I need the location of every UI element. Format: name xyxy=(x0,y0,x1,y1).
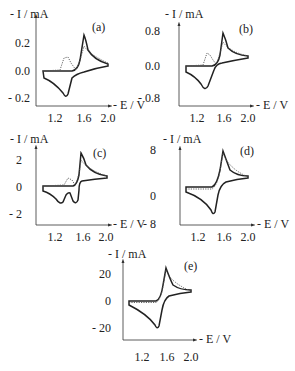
x-tick: 1.6 xyxy=(76,230,91,244)
y-axis-label: - I / mA xyxy=(10,132,49,146)
panel-tag: (c) xyxy=(93,146,106,160)
y-tick: 8 xyxy=(150,143,156,157)
panel-tag: (d) xyxy=(240,144,254,158)
y-tick: - 8 xyxy=(143,217,156,231)
y-tick: 2 xyxy=(16,153,22,167)
cv-solid xyxy=(43,153,107,203)
x-tick: 1.2 xyxy=(191,230,206,244)
y-axis-label: - I / mA xyxy=(10,7,49,21)
x-tick: 1.6 xyxy=(160,350,175,364)
panel-tag: (a) xyxy=(92,20,105,34)
panel-tag: (b) xyxy=(239,22,253,36)
y-axis-label: - I / mA xyxy=(108,247,147,261)
x-tick: 2.0 xyxy=(101,111,116,125)
y-tick: 0 xyxy=(105,294,111,308)
cv-solid xyxy=(186,33,248,89)
x-axis-label: - E / V xyxy=(199,332,231,346)
y-tick: - 0.2 xyxy=(8,91,30,105)
y-tick: 0.0 xyxy=(15,64,30,78)
figure-canvas: - I / mA (a) 0.2 0.0 - 0.2 1.2 1.6 2.0 -… xyxy=(0,0,295,371)
x-tick: 1.2 xyxy=(190,111,205,125)
y-tick: 0.2 xyxy=(15,36,30,50)
panel-b: - I / mA (b) 0.8 0.0 - 0.8 1.2 1.6 2.0 -… xyxy=(138,7,288,125)
x-tick: 1.2 xyxy=(48,230,63,244)
panel-e: - I / mA (e) 20 0 - 20 1.2 1.6 2.0 - E /… xyxy=(92,247,231,364)
x-tick: 2.0 xyxy=(184,350,199,364)
x-tick: 1.2 xyxy=(135,350,150,364)
y-tick: - 0.8 xyxy=(138,91,160,105)
panel-a: - I / mA (a) 0.2 0.0 - 0.2 1.2 1.6 2.0 -… xyxy=(8,7,145,125)
y-tick: 0 xyxy=(16,180,22,194)
panel-d: - I / mA (d) 8 0 - 8 1.2 1.6 2.0 - E / V xyxy=(143,132,289,244)
x-tick: 1.6 xyxy=(217,111,232,125)
x-axis-label: - E / V xyxy=(256,98,288,112)
x-axis-label: - E / V xyxy=(257,217,289,231)
x-tick: 2.0 xyxy=(241,230,256,244)
cv-solid xyxy=(43,35,108,96)
y-tick: 20 xyxy=(99,267,111,281)
x-axis-label: - E / V xyxy=(113,217,145,231)
x-tick: 1.6 xyxy=(217,230,232,244)
y-tick: - 20 xyxy=(92,321,111,335)
x-tick: 2.0 xyxy=(241,111,256,125)
y-axis-label: - I / mA xyxy=(163,132,202,146)
x-tick: 1.2 xyxy=(48,111,63,125)
y-axis-label: - I / mA xyxy=(165,7,204,21)
x-tick: 2.0 xyxy=(99,230,114,244)
y-tick: 0.8 xyxy=(145,24,160,38)
y-tick: 0 xyxy=(150,189,156,203)
y-tick: - 2 xyxy=(9,207,22,221)
panel-tag: (e) xyxy=(184,259,197,273)
cv-dotted xyxy=(186,153,248,189)
panel-c: - I / mA (c) 2 0 - 2 1.2 1.6 2.0 - E / V xyxy=(9,132,145,244)
y-tick: 0.0 xyxy=(145,59,160,73)
x-tick: 1.6 xyxy=(77,111,92,125)
cv-solid xyxy=(129,268,191,328)
